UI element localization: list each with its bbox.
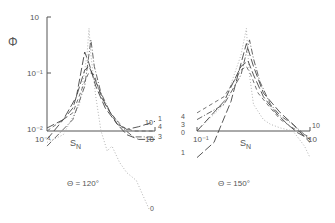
series-line-4-120: [47, 72, 155, 131]
series-group-150: [197, 28, 310, 157]
title-120: Θ = 120°: [67, 179, 99, 188]
series-line-1-120: [47, 52, 155, 129]
series-labels-120: 013410: [145, 115, 162, 212]
ytick-label-01-120: 10⁻¹: [27, 69, 43, 78]
panel-120: Φ 10 10⁻¹ 10⁻² 10⁻¹ 10 SN Θ = 120° 01341…: [8, 13, 162, 212]
series-label-10-120: 10: [145, 119, 153, 126]
xtick-label-min-150: 10⁻¹: [193, 135, 209, 144]
series-line-4-150: [197, 66, 310, 136]
ytick-label-001-120: 10⁻²: [27, 125, 43, 134]
title-150: Θ = 150°: [218, 179, 250, 188]
series-line-3-150: [197, 40, 310, 139]
series-label-10-150: 10: [312, 122, 320, 129]
xlabel-150: SN: [240, 138, 251, 150]
series-label-3-120: 3: [158, 133, 162, 140]
ylabel-120: Φ: [8, 35, 18, 49]
series-label-4-120: 4: [158, 123, 162, 130]
series-label-1-150: 1: [181, 149, 185, 156]
series-label-1-120: 1: [158, 115, 162, 122]
ytick-label-10-120: 10: [30, 13, 39, 22]
series-line-0-150: [197, 28, 310, 157]
series-line-10-120: [47, 66, 155, 139]
series-label-0-120: 0: [150, 205, 154, 212]
series-label-4-150: 4: [181, 113, 185, 120]
chart-canvas: Φ 10 10⁻¹ 10⁻² 10⁻¹ 10 SN Θ = 120° 01341…: [0, 0, 335, 223]
series-group-120: [47, 28, 155, 210]
xlabel-120: SN: [70, 138, 81, 150]
series-line-1-150: [197, 44, 310, 158]
panel-150: 10⁻¹ 10 SN Θ = 150° 013410: [181, 28, 320, 188]
series-label-3-150: 3: [181, 121, 185, 128]
xtick-label-min-120: 10⁻¹: [35, 135, 51, 144]
series-label-0-150: 0: [181, 129, 185, 136]
